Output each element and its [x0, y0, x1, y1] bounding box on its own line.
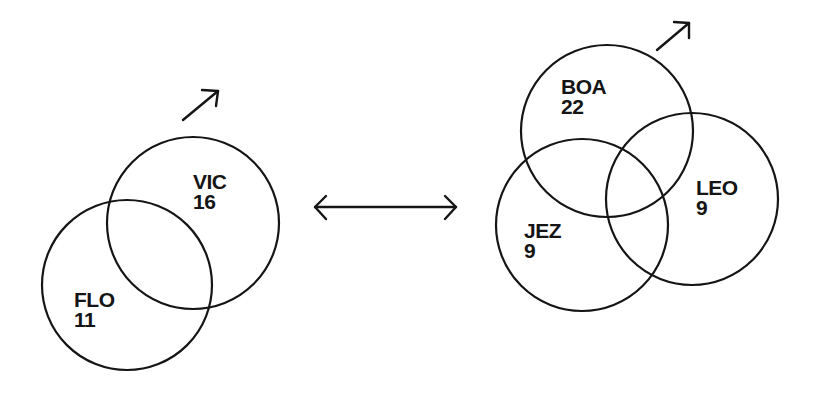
set-name: BOA — [561, 77, 606, 97]
set-value: 16 — [193, 192, 227, 212]
trend-up-arrow-icon — [183, 90, 218, 120]
set-value: 11 — [74, 310, 115, 330]
set-name: JEZ — [524, 221, 561, 241]
set-name: FLO — [74, 290, 115, 310]
set-name: LEO — [696, 178, 738, 198]
set-label-leo: LEO 9 — [696, 178, 738, 218]
circle-jez — [496, 139, 668, 311]
right-venn-group — [496, 22, 778, 311]
trend-up-arrow-icon — [657, 22, 689, 50]
set-value: 9 — [524, 241, 561, 261]
circle-vic — [107, 137, 279, 309]
set-value: 22 — [561, 97, 606, 117]
venn-diagram-canvas — [0, 0, 816, 397]
set-label-jez: JEZ 9 — [524, 221, 561, 261]
set-label-boa: BOA 22 — [561, 77, 606, 117]
set-label-flo: FLO 11 — [74, 290, 115, 330]
set-name: VIC — [193, 172, 227, 192]
set-value: 9 — [696, 198, 738, 218]
circle-flo — [42, 200, 212, 370]
double-arrow-icon — [315, 196, 456, 219]
set-label-vic: VIC 16 — [193, 172, 227, 212]
